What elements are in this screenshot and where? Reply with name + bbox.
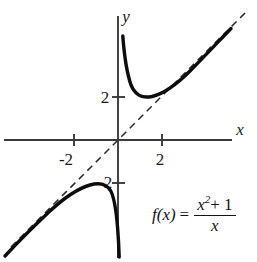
x-tick-label-2: 2	[156, 150, 165, 169]
formula-equals-sign: =	[180, 205, 190, 225]
curve-right-branch	[123, 29, 231, 98]
curve-left-branch	[5, 184, 119, 257]
y-tick-label-2: 2	[101, 88, 110, 107]
function-graph-figure: y x -2 2 2 2 f(x) = x2+ 1 x	[0, 0, 257, 262]
function-formula: f(x) = x2+ 1 x	[152, 196, 236, 235]
numerator-variable: x	[197, 195, 205, 214]
formula-fraction: x2+ 1 x	[194, 196, 235, 235]
numerator-remainder: + 1	[210, 195, 232, 214]
x-axis-label: x	[235, 120, 244, 139]
x-tick-label-minus-2: -2	[59, 150, 73, 169]
y-axis-label: y	[120, 7, 130, 26]
formula-denominator: x	[208, 216, 222, 235]
formula-numerator: x2+ 1	[194, 196, 235, 216]
formula-function-name: f(x)	[152, 205, 176, 225]
